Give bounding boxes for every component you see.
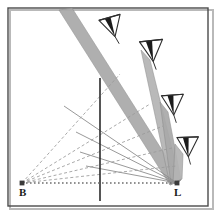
- camera-rim-icon: [177, 137, 199, 138]
- vertex-node-B: [20, 181, 25, 186]
- diagram-canvas: B L: [0, 0, 219, 217]
- vertex-label-L: L: [174, 186, 181, 198]
- figure-root: B L: [0, 0, 219, 217]
- vertex-label-B: B: [19, 186, 27, 198]
- page-background: [0, 0, 219, 217]
- vertex-node-L: [175, 181, 180, 186]
